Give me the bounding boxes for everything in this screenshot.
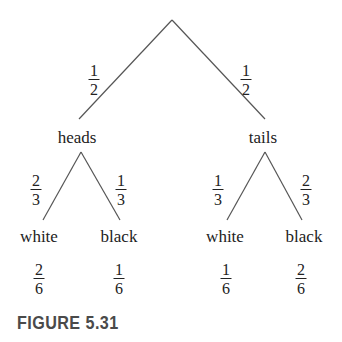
prob-tails-black: 23 bbox=[301, 173, 312, 207]
node-tails: tails bbox=[249, 128, 277, 148]
joint-heads-white: 26 bbox=[34, 262, 45, 296]
leaf-tails-black: black bbox=[286, 227, 323, 247]
figure-caption: FIGURE 5.31 bbox=[17, 312, 119, 334]
leaf-heads-white: white bbox=[20, 227, 58, 247]
probability-tree-figure: 12 12 heads tails 23 13 13 23 white blac… bbox=[0, 0, 342, 342]
leaf-tails-white: white bbox=[206, 227, 244, 247]
edge-tails-black bbox=[265, 152, 302, 220]
prob-heads: 12 bbox=[89, 63, 100, 97]
joint-heads-black: 16 bbox=[114, 262, 125, 296]
prob-heads-white: 23 bbox=[31, 173, 42, 207]
joint-tails-black: 26 bbox=[296, 262, 307, 296]
edge-heads-white bbox=[43, 152, 81, 220]
prob-tails-white: 13 bbox=[213, 173, 224, 207]
prob-tails: 12 bbox=[241, 63, 252, 97]
leaf-heads-black: black bbox=[101, 227, 138, 247]
joint-tails-white: 16 bbox=[221, 262, 232, 296]
edge-tails-white bbox=[227, 152, 265, 220]
node-heads: heads bbox=[58, 128, 97, 148]
prob-heads-black: 13 bbox=[116, 173, 127, 207]
edge-heads-black bbox=[81, 152, 120, 220]
tree-edges bbox=[0, 0, 342, 342]
